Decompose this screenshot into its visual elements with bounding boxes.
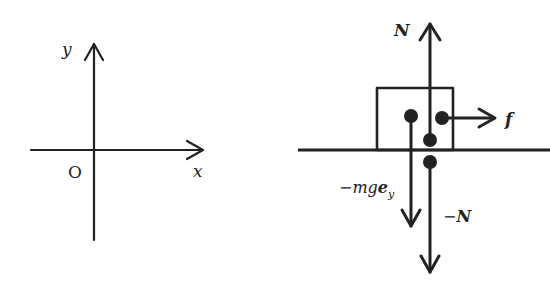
reaction-force-label: −N [443,207,472,226]
gravity-label-subscript: y [387,188,395,201]
friction-label: f [504,109,515,129]
gravity-label: −mgey [339,178,395,201]
reaction-label-vector: N [455,207,472,226]
free-body-diagram [298,24,550,272]
origin-label: O [68,162,82,182]
gravity-point-icon [404,109,418,123]
gravity-label-vector: e [378,178,388,197]
normal-point-icon [423,133,437,147]
coordinate-axes [31,44,203,240]
x-axis-label: x [193,161,203,181]
y-axis-label: y [61,39,72,59]
friction-point-icon [435,111,449,125]
diagram-canvas: y x O N f −mgey −N [0,0,550,292]
normal-force-label: N [393,20,411,40]
gravity-label-prefix: −mg [339,178,378,197]
reaction-label-prefix: − [443,207,456,226]
reaction-point-icon [423,155,437,169]
